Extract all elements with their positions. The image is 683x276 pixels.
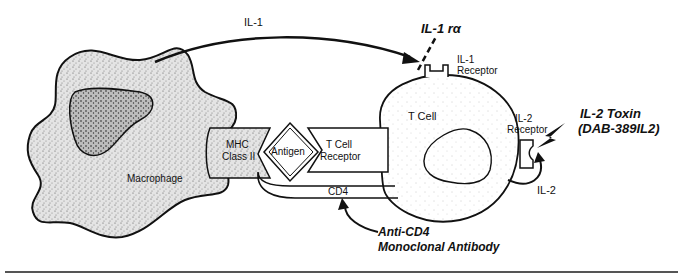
macrophage-label: Macrophage (127, 173, 183, 184)
il1-arrow (155, 37, 410, 62)
il1-receptor-label-2: Receptor (457, 65, 498, 76)
macrophage-cell (28, 48, 237, 237)
antigen-label: Antigen (271, 146, 305, 157)
il2-label: IL-2 (537, 184, 556, 196)
t-cell-receptor (308, 128, 388, 172)
il2-receptor (520, 140, 533, 168)
il2-toxin-label-1: IL-2 Toxin (580, 106, 641, 121)
tcr-label-1: T Cell (326, 139, 352, 150)
il1-receptor (425, 65, 448, 77)
il2-toxin-label-2: (DAB-389IL2) (578, 121, 660, 136)
il2-receptor-label-2: Receptor (507, 124, 548, 135)
mhc-label-2: Class II (222, 151, 255, 162)
immune-diagram: IL-1 IL-1 rα IL-1 Receptor T Cell IL-2 R… (0, 0, 683, 276)
il1-label: IL-1 (244, 16, 263, 28)
tcr-label-2: Receptor (320, 151, 361, 162)
il1ra-label: IL-1 rα (421, 21, 462, 36)
il1-receptor-label-1: IL-1 (457, 54, 475, 65)
cd4-label: CD4 (328, 186, 348, 197)
t-cell-label: T Cell (408, 110, 437, 122)
anti-cd4-label-1: Anti-CD4 (377, 225, 430, 239)
il2-receptor-label-1: IL-2 (515, 113, 533, 124)
anti-cd4-arrow (345, 206, 378, 232)
anti-cd4-label-2: Monoclonal Antibody (378, 240, 501, 254)
mhc-label-1: MHC (226, 139, 249, 150)
